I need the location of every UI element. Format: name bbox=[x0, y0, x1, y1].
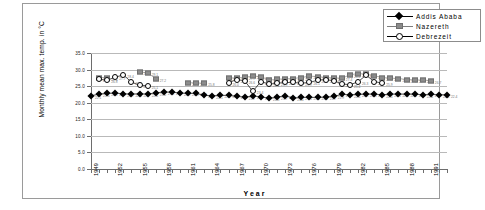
data-point bbox=[306, 79, 312, 85]
x-axis-tick-label: 1991 bbox=[433, 163, 439, 176]
data-point bbox=[387, 76, 393, 81]
x-axis-tick-label: 1970 bbox=[263, 163, 269, 176]
x-axis-tick-label: 1955 bbox=[142, 163, 148, 176]
data-point-label: 25.1 bbox=[152, 86, 158, 90]
x-axis-tick-label: 1979 bbox=[336, 163, 342, 176]
x-axis-tick bbox=[229, 170, 230, 173]
x-axis-tick bbox=[123, 170, 124, 173]
data-point-label: 26.0 bbox=[233, 83, 239, 87]
x-axis-tick bbox=[164, 170, 165, 173]
x-axis-tick bbox=[374, 170, 375, 173]
x-axis-tick bbox=[140, 170, 141, 173]
data-point bbox=[226, 80, 232, 86]
x-axis-tick bbox=[253, 170, 254, 173]
x-axis-tick bbox=[301, 170, 302, 173]
x-axis-tick bbox=[188, 170, 189, 173]
x-axis-tick bbox=[366, 170, 367, 173]
y-axis-tick-label: 15.0 bbox=[75, 117, 85, 122]
data-point bbox=[355, 79, 361, 85]
y-axis-tick-label: 35.0 bbox=[75, 51, 85, 56]
data-point bbox=[347, 82, 353, 88]
legend-key-icon bbox=[387, 22, 413, 31]
data-point-label: 25.4 bbox=[354, 85, 360, 89]
data-point-label: 26.7 bbox=[435, 81, 441, 85]
data-point bbox=[201, 81, 207, 86]
legend-item-debrezeit[interactable]: Debrezeit bbox=[387, 32, 477, 41]
x-axis-tick bbox=[431, 170, 432, 173]
data-point bbox=[274, 80, 280, 86]
x-axis-tick-label: 1964 bbox=[214, 163, 220, 176]
data-point bbox=[153, 76, 159, 81]
x-axis-tick bbox=[261, 170, 262, 173]
y-axis-tick-label: 20.0 bbox=[75, 100, 85, 105]
data-point bbox=[315, 77, 321, 83]
x-axis-tick-label: 1985 bbox=[384, 163, 390, 176]
data-point bbox=[404, 77, 410, 82]
data-point bbox=[104, 77, 110, 83]
legend-item-label: Nazereth bbox=[416, 23, 450, 30]
data-point-label: 26.8 bbox=[111, 80, 117, 84]
x-axis-tick-label: 1949 bbox=[93, 163, 99, 176]
data-point bbox=[355, 71, 361, 76]
legend-item-nazereth[interactable]: Nazereth bbox=[387, 22, 477, 31]
data-point bbox=[323, 77, 329, 83]
data-point bbox=[120, 72, 126, 78]
x-axis-tick bbox=[156, 170, 157, 173]
data-point bbox=[258, 79, 264, 85]
x-axis-tick-label: 1988 bbox=[409, 163, 415, 176]
data-point bbox=[428, 78, 434, 83]
data-point bbox=[145, 70, 151, 75]
x-axis-tick bbox=[447, 170, 448, 173]
x-axis-tick-label: 1973 bbox=[287, 163, 293, 176]
legend-item-label: Addis Ababa bbox=[416, 13, 462, 20]
x-axis-title: Year bbox=[23, 190, 485, 197]
data-point bbox=[96, 76, 102, 82]
x-axis-tick-label: 1952 bbox=[117, 163, 123, 176]
data-point bbox=[331, 78, 337, 84]
x-axis-tick-label: 1967 bbox=[239, 163, 245, 176]
y-axis-labels: 35.030.025.020.015.010.05.00.0 bbox=[23, 53, 91, 170]
x-axis-tick bbox=[358, 170, 359, 173]
data-point bbox=[242, 78, 248, 84]
x-axis-tick bbox=[220, 170, 221, 173]
x-axis-tick bbox=[204, 170, 205, 173]
data-point bbox=[290, 79, 296, 85]
y-axis-tick-label: 10.0 bbox=[75, 133, 85, 138]
data-point bbox=[395, 76, 401, 81]
x-axis-tick bbox=[423, 170, 424, 173]
x-axis-tick bbox=[237, 170, 238, 173]
data-point bbox=[371, 79, 377, 85]
data-point bbox=[250, 88, 256, 94]
x-axis-tick bbox=[172, 170, 173, 173]
x-axis-tick bbox=[398, 170, 399, 173]
data-point bbox=[128, 79, 134, 85]
x-axis-tick bbox=[91, 170, 92, 173]
data-point-label: 23.4 bbox=[257, 91, 263, 95]
x-axis-tick bbox=[107, 170, 108, 173]
y-axis-tick-label: 30.0 bbox=[75, 67, 85, 72]
data-point bbox=[339, 81, 345, 87]
data-point-label: 26.6 bbox=[249, 81, 255, 85]
x-axis-tick-label: 1976 bbox=[311, 163, 317, 176]
legend-key-icon bbox=[387, 12, 413, 21]
data-point bbox=[145, 83, 151, 89]
x-axis-tick bbox=[196, 170, 197, 173]
data-point bbox=[266, 81, 272, 87]
data-point bbox=[306, 74, 312, 79]
x-axis-tick bbox=[318, 170, 319, 173]
x-axis-tick-label: 1982 bbox=[360, 163, 366, 176]
data-point bbox=[137, 82, 143, 88]
data-point-label: 25.9 bbox=[386, 83, 392, 87]
x-axis-tick bbox=[131, 170, 132, 173]
y-axis-tick-label: 0.0 bbox=[78, 167, 85, 172]
x-axis-tick bbox=[180, 170, 181, 173]
data-point bbox=[379, 80, 385, 86]
x-axis-tick-label: 1961 bbox=[190, 163, 196, 176]
data-point-label: 26.3 bbox=[362, 82, 368, 86]
data-point bbox=[282, 79, 288, 85]
data-point bbox=[420, 78, 426, 83]
legend-item-addis-ababa[interactable]: Addis Ababa bbox=[387, 12, 477, 21]
data-point bbox=[363, 72, 369, 78]
data-point bbox=[250, 74, 256, 79]
data-point bbox=[234, 77, 240, 83]
